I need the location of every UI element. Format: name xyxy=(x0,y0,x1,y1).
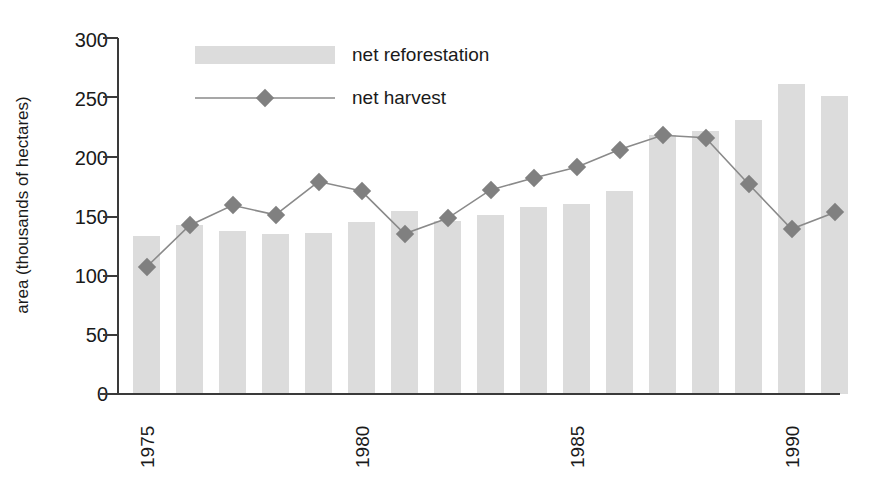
x-tick-label-1985: 1985 xyxy=(567,426,589,468)
y-tick-label: 200 xyxy=(75,147,108,170)
bar xyxy=(305,233,332,394)
legend-label-harvest: net harvest xyxy=(352,87,446,109)
bar xyxy=(692,131,719,394)
legend-marker-harvest xyxy=(256,89,274,107)
bar xyxy=(434,221,461,394)
bar xyxy=(563,204,590,394)
bar xyxy=(219,231,246,394)
bar xyxy=(348,222,375,394)
data-point-marker xyxy=(610,140,628,158)
y-tick-label: 50 xyxy=(86,324,108,347)
data-point-marker xyxy=(223,196,241,214)
bar xyxy=(606,191,633,394)
bar xyxy=(778,84,805,394)
y-tick-label: 250 xyxy=(75,88,108,111)
bar xyxy=(477,215,504,394)
x-tick-label-1980: 1980 xyxy=(352,426,374,468)
data-point-marker xyxy=(481,181,499,199)
bar xyxy=(520,207,547,394)
bar xyxy=(262,234,289,394)
y-tick-label: 150 xyxy=(75,206,108,229)
data-point-marker xyxy=(309,172,327,190)
bar xyxy=(821,96,848,394)
bar xyxy=(735,120,762,394)
x-tick-label-1990: 1990 xyxy=(782,426,804,468)
y-tick-label: 300 xyxy=(75,29,108,52)
legend-swatch-reforestation xyxy=(195,46,335,64)
bar xyxy=(176,225,203,394)
y-tick-label: 100 xyxy=(75,265,108,288)
data-point-marker xyxy=(352,182,370,200)
legend-label-reforestation: net reforestation xyxy=(352,44,489,66)
x-tick-label-1975: 1975 xyxy=(137,426,159,468)
data-point-marker xyxy=(266,206,284,224)
data-point-marker xyxy=(524,169,542,187)
bar xyxy=(649,135,676,394)
y-tick-label: 0 xyxy=(97,383,108,406)
data-point-marker xyxy=(567,158,585,176)
chart-figure: area (thousands of hectares) 0 50 100 15… xyxy=(0,0,870,480)
y-axis-title: area (thousands of hectares) xyxy=(6,10,40,400)
